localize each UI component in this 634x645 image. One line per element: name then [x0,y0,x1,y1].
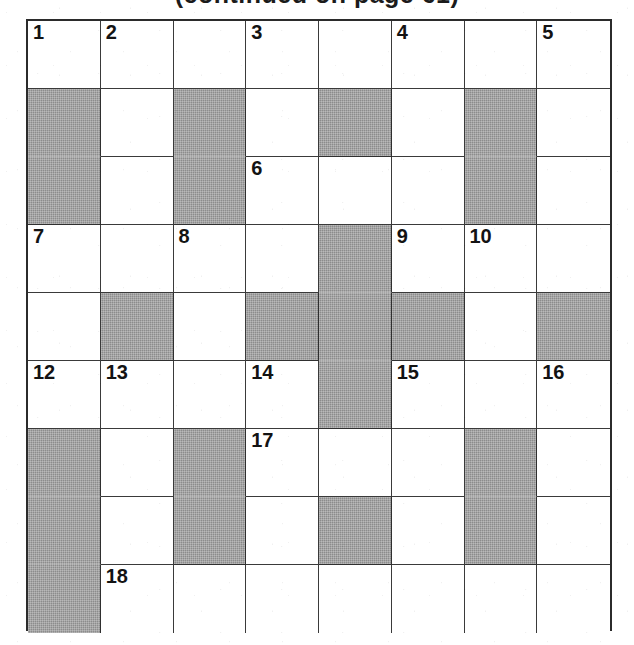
grid-cell-blocked [465,429,538,497]
grid-cell-open[interactable]: 9 [392,225,465,293]
grid-cell-open[interactable]: 8 [174,225,247,293]
grid-row: 18 [28,565,610,633]
grid-cell-open[interactable] [465,21,538,89]
grid-cell-open[interactable] [101,225,174,293]
caption-text: (continued on page 61) [0,0,634,9]
grid-cell-open[interactable] [28,293,101,361]
grid-cell-blocked [319,89,392,157]
cell-number: 1 [33,22,44,43]
grid-cell-open[interactable] [101,429,174,497]
grid-cell-open[interactable] [319,565,392,633]
grid-row [28,293,610,361]
grid-cell-open[interactable]: 15 [392,361,465,429]
grid-row: 1213141516 [28,361,610,429]
cell-number: 13 [106,362,128,383]
grid-cell-blocked [319,497,392,565]
grid-cell-open[interactable] [392,429,465,497]
grid-cell-blocked [174,429,247,497]
caption-fragment: (continued on page 61) [0,0,634,16]
cell-number: 17 [251,430,273,451]
grid-row: 6 [28,157,610,225]
grid-cell-blocked [319,225,392,293]
grid-cell-open[interactable]: 2 [101,21,174,89]
grid-cell-open[interactable] [319,429,392,497]
grid-row: 12345 [28,21,610,89]
grid-cell-blocked [465,89,538,157]
grid-cell-open[interactable]: 6 [246,157,319,225]
grid-cell-blocked [28,565,101,633]
grid-cell-blocked [174,157,247,225]
grid-cell-open[interactable] [465,565,538,633]
grid-cell-blocked [28,157,101,225]
grid-cell-open[interactable] [174,565,247,633]
grid-row: 17 [28,429,610,497]
grid-cell-open[interactable] [174,361,247,429]
grid-cell-open[interactable]: 7 [28,225,101,293]
cell-number: 8 [179,226,190,247]
grid-cell-open[interactable]: 3 [246,21,319,89]
grid-cell-open[interactable] [392,497,465,565]
cell-number: 14 [251,362,273,383]
grid-cell-blocked [174,89,247,157]
cell-number: 4 [397,22,408,43]
grid-cell-blocked [174,497,247,565]
grid-cell-open[interactable] [101,497,174,565]
grid-cell-blocked [465,497,538,565]
grid-row [28,497,610,565]
grid-cell-open[interactable] [392,565,465,633]
grid-cell-open[interactable] [319,21,392,89]
crossword-grid[interactable]: 1234567891012131415161718 [26,19,612,631]
grid-cell-open[interactable]: 12 [28,361,101,429]
grid-cell-open[interactable]: 10 [465,225,538,293]
grid-cell-open[interactable] [537,497,610,565]
grid-cell-open[interactable] [537,89,610,157]
grid-cell-open[interactable] [174,21,247,89]
cell-number: 6 [251,158,262,179]
grid-cell-open[interactable] [101,157,174,225]
grid-cell-open[interactable] [465,361,538,429]
grid-cell-blocked [319,361,392,429]
grid-cell-open[interactable] [537,225,610,293]
grid-row: 78910 [28,225,610,293]
grid-cell-blocked [537,293,610,361]
grid-cell-blocked [246,293,319,361]
grid-cell-open[interactable]: 14 [246,361,319,429]
grid-cell-open[interactable]: 13 [101,361,174,429]
grid-cell-open[interactable] [101,89,174,157]
grid-cell-blocked [465,157,538,225]
cell-number: 16 [542,362,564,383]
grid-cell-open[interactable] [537,565,610,633]
cell-number: 10 [470,226,492,247]
cell-number: 18 [106,566,128,587]
grid-cell-blocked [28,429,101,497]
grid-cell-open[interactable]: 5 [537,21,610,89]
grid-cell-open[interactable]: 4 [392,21,465,89]
grid-cell-open[interactable]: 1 [28,21,101,89]
grid-cell-open[interactable] [392,89,465,157]
grid-cell-open[interactable] [392,157,465,225]
cell-number: 15 [397,362,419,383]
grid-cell-blocked [101,293,174,361]
grid-row [28,89,610,157]
cell-number: 7 [33,226,44,247]
grid-cell-open[interactable]: 16 [537,361,610,429]
grid-cell-open[interactable]: 17 [246,429,319,497]
grid-cell-open[interactable] [537,429,610,497]
grid-cell-open[interactable] [319,157,392,225]
grid-cell-blocked [28,89,101,157]
grid-cell-open[interactable]: 18 [101,565,174,633]
grid-cell-open[interactable] [246,565,319,633]
grid-cell-blocked [319,293,392,361]
grid-cell-open[interactable] [246,225,319,293]
cell-number: 2 [106,22,117,43]
cell-number: 5 [542,22,553,43]
cell-number: 12 [33,362,55,383]
grid-cell-open[interactable] [246,89,319,157]
grid-cell-blocked [392,293,465,361]
cell-number: 9 [397,226,408,247]
grid-cell-open[interactable] [246,497,319,565]
grid-cell-open[interactable] [465,293,538,361]
grid-cell-blocked [28,497,101,565]
grid-cell-open[interactable] [174,293,247,361]
grid-cell-open[interactable] [537,157,610,225]
